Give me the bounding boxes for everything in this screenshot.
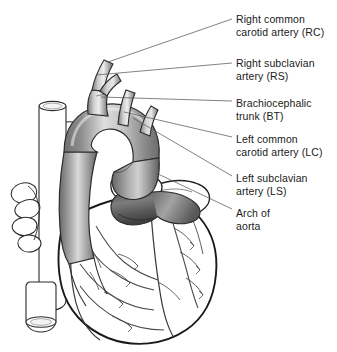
label-line-1: Left common bbox=[236, 133, 323, 146]
label-right-common-carotid-artery: Right common carotid artery (RC) bbox=[236, 13, 324, 39]
label-line-2: aorta bbox=[236, 220, 270, 233]
label-brachiocephalic-trunk: Brachiocephalic trunk (BT) bbox=[236, 97, 312, 123]
pulmonary-veins-left bbox=[11, 183, 41, 252]
leader-rc bbox=[108, 19, 232, 62]
inferior-vena-cava bbox=[26, 282, 56, 332]
label-line-1: Brachiocephalic bbox=[236, 97, 312, 110]
label-right-subclavian-artery: Right subclavian artery (RS) bbox=[236, 57, 315, 83]
label-line-1: Arch of bbox=[236, 207, 270, 220]
anatomy-figure: Right common carotid artery (RC) Right s… bbox=[0, 0, 337, 352]
leader-bt bbox=[101, 97, 232, 101]
label-line-1: Left subclavian bbox=[236, 172, 308, 185]
label-left-common-carotid-artery: Left common carotid artery (LC) bbox=[236, 133, 323, 159]
label-line-1: Right common bbox=[236, 13, 324, 26]
leader-rs bbox=[96, 63, 232, 75]
label-line-2: carotid artery (LC) bbox=[236, 146, 323, 159]
label-line-2: trunk (BT) bbox=[236, 110, 312, 123]
label-arch-of-aorta: Arch of aorta bbox=[236, 207, 270, 233]
label-line-2: artery (LS) bbox=[236, 185, 308, 198]
label-left-subclavian-artery: Left subclavian artery (LS) bbox=[236, 172, 308, 198]
label-line-2: carotid artery (RC) bbox=[236, 26, 324, 39]
label-line-2: artery (RS) bbox=[236, 70, 315, 83]
label-line-1: Right subclavian bbox=[236, 57, 315, 70]
